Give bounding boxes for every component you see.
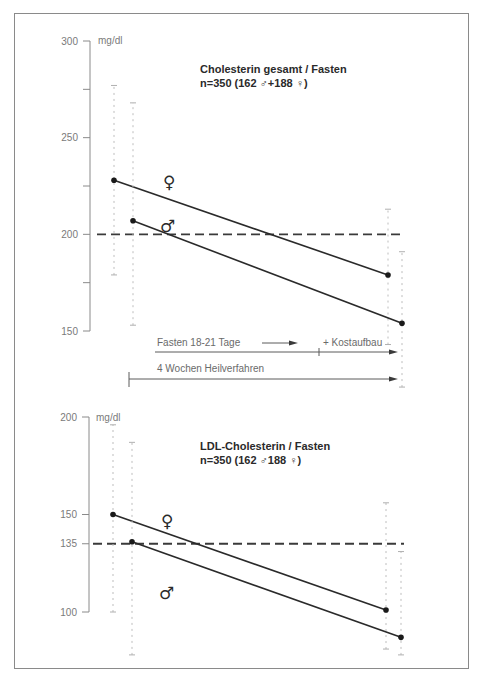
chart2-y-tick-label: 100	[60, 607, 77, 618]
chart2-y-tick-label: 200	[60, 412, 77, 423]
annotation-cure: 4 Wochen Heilverfahren	[157, 363, 264, 374]
chart1-male-series-line	[133, 221, 402, 323]
chart1-unit-label: mg/dl	[98, 35, 122, 46]
chart1-female-end-point	[385, 272, 391, 278]
chart2-subtitle: n=350 (162 ♂188 ♀)	[200, 454, 302, 466]
chart2-title: LDL-Cholesterin / Fasten	[200, 440, 330, 452]
chart2-y-tick-label: 135	[60, 538, 77, 549]
chart1-y-tick-label: 300	[61, 36, 78, 47]
chart2-female-start-point	[110, 512, 116, 518]
chart2-female-series-line	[113, 515, 386, 611]
chart1-male-symbol: ♂	[160, 216, 175, 236]
chart1-male-end-point	[399, 320, 405, 326]
annotation-diet: + Kostaufbau	[323, 337, 382, 348]
chart1-title: Cholesterin gesamt / Fasten	[200, 63, 347, 75]
chart2-male-start-point	[129, 539, 135, 545]
chart1-male-start-point	[130, 218, 136, 224]
cure-timeline-arrow-head	[389, 377, 398, 382]
chart-canvas: mg/dl Cholesterin gesamt / Fasten n=350 …	[0, 0, 484, 676]
chart1-y-tick-label: 200	[61, 229, 78, 240]
chart2-female-end-point	[383, 607, 389, 613]
chart2-unit-label: mg/dl	[96, 412, 120, 423]
annotation-fasting: Fasten 18-21 Tage	[157, 337, 241, 348]
chart1-y-tick-label: 250	[61, 132, 78, 143]
chart2-male-symbol: ♂	[159, 583, 174, 603]
chart2-male-end-point	[398, 635, 404, 641]
fasting-inline-arrow-head	[289, 341, 298, 346]
chart2-female-symbol: ♀	[161, 511, 173, 531]
chart1-female-symbol: ♀	[163, 172, 175, 192]
chart2-y-tick-label: 150	[60, 509, 77, 520]
chart1-female-start-point	[111, 177, 117, 183]
fasting-timeline-arrow-head	[389, 350, 398, 355]
chart1-y-tick-label: 150	[61, 326, 78, 337]
chart1-female-series-line	[114, 180, 388, 275]
chart1-subtitle: n=350 (162 ♂+188 ♀)	[200, 77, 308, 89]
